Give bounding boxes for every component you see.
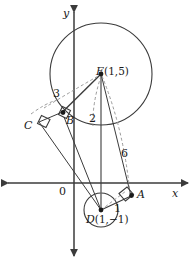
label-y-axis: y xyxy=(63,8,69,19)
dashed-measure-lines xyxy=(31,75,130,210)
segment-AE xyxy=(101,74,131,196)
label-point-D-coord: (1,−1) xyxy=(95,213,129,225)
label-point-E-coord: (1,5) xyxy=(104,65,129,77)
segment-BD xyxy=(64,117,101,210)
dot-D xyxy=(99,208,104,213)
dot-B xyxy=(61,110,66,115)
label-x-axis: x xyxy=(172,188,178,199)
label-point-E: E(1,5) xyxy=(96,66,129,77)
label-origin: 0 xyxy=(59,186,66,197)
right-angle-marks xyxy=(38,107,134,202)
label-point-A: A xyxy=(137,189,145,200)
label-point-E-name: E xyxy=(96,65,104,78)
label-measure-1: 1 xyxy=(114,203,121,214)
label-measure-3: 3 xyxy=(53,88,60,99)
geometry-figure: E(1,5) D(1,−1) A B C 3 2 6 1 0 x y xyxy=(0,0,196,264)
segment-CD xyxy=(39,122,101,210)
point-dots xyxy=(61,72,134,213)
dot-A xyxy=(129,193,134,198)
label-measure-6: 6 xyxy=(121,148,128,159)
label-point-D: D(1,−1) xyxy=(86,214,129,225)
label-point-C: C xyxy=(24,120,32,131)
label-measure-2: 2 xyxy=(89,113,96,124)
label-point-B: B xyxy=(66,115,74,126)
label-point-D-name: D xyxy=(86,213,95,226)
